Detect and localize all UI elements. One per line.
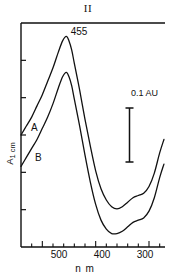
scale-bar-icon: [126, 108, 134, 162]
spectrum-curve-a: [21, 36, 164, 208]
absorption-spectrum-figure: II 455 A B 0.1 AU A1 cm 500 400 300 n m: [0, 0, 176, 280]
plot-canvas: [0, 0, 176, 280]
x-axis-ticks: [32, 241, 160, 247]
plot-frame: [21, 23, 165, 247]
spectrum-curve-b: [21, 72, 164, 234]
